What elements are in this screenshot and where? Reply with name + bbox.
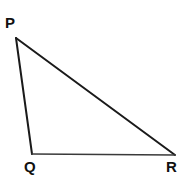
vertex-label-p: P [5, 15, 15, 30]
triangle-diagram: P Q R [0, 0, 185, 179]
vertex-label-r: R [166, 159, 177, 174]
edge-pr [16, 38, 175, 155]
edge-qr [32, 154, 175, 155]
triangle-shape [0, 0, 185, 179]
vertex-label-q: Q [24, 159, 36, 174]
edge-pq [16, 38, 32, 154]
